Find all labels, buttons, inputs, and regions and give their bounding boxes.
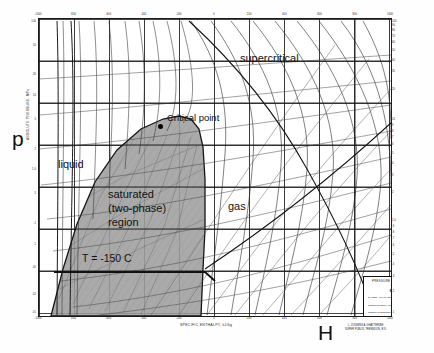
tick-label-bottom: 0	[213, 317, 215, 320]
label-supercritical: supercritical	[240, 52, 299, 64]
tick-label-bottom: -200	[176, 317, 182, 320]
tick-label-bottom: -400	[141, 317, 147, 320]
tick-label-right: 60	[392, 41, 395, 44]
tick-label-right: 7	[392, 135, 394, 138]
label-isotherm-minus-150c: T = -150 C	[82, 252, 132, 264]
label-saturated-line-2: (two-phase)	[108, 202, 166, 214]
tick-label-bottom: 600	[317, 317, 322, 320]
label-saturated-line-1: saturated	[108, 188, 154, 200]
tick-label-top: 200	[247, 13, 252, 16]
tick-label-right: 20	[392, 88, 395, 91]
tick-label-left: .05	[24, 266, 36, 269]
tick-label-right: .1	[392, 311, 394, 314]
tick-label-right: 100	[392, 19, 397, 22]
tick-label-right: 5	[392, 152, 394, 155]
label-critical-point: Critical point	[167, 112, 219, 123]
plot-frame: PRESSURE - ENTHALPY DIAGRAM FOR METHANE …	[38, 18, 392, 317]
tick-label-top: -200	[176, 13, 182, 16]
tick-label-left: .02	[24, 293, 36, 296]
title-block-line-1: PRESSURE - ENTHALPY DIAGRAM	[364, 279, 392, 283]
tick-label-bottom: -1000	[34, 317, 41, 320]
tick-label-right: 6	[392, 143, 394, 146]
tick-label-right: .4	[392, 262, 394, 265]
tick-label-left: 5	[24, 117, 36, 120]
label-gas: gas	[228, 200, 246, 212]
tick-label-right: .3	[392, 274, 394, 277]
tick-label-bottom: 800	[352, 317, 357, 320]
tick-label-right: 3	[392, 173, 394, 176]
title-block-line-2: FOR	[364, 284, 392, 288]
tick-label-right: .5	[392, 253, 394, 256]
tick-label-top: 1000	[387, 13, 393, 16]
tick-label-right: .7	[392, 237, 394, 240]
tick-label-top: -400	[141, 13, 147, 16]
tick-label-left: 1.0	[24, 168, 36, 171]
tick-label-top: 400	[282, 13, 287, 16]
curve-layer	[39, 19, 391, 316]
tick-label-right: 8	[392, 129, 394, 132]
tick-label-right: 2	[392, 190, 394, 193]
tick-label-top: -800	[70, 13, 76, 16]
critical-point-marker	[158, 124, 163, 129]
label-liquid: liquid	[58, 158, 84, 170]
tick-label-bottom: 1000	[387, 317, 393, 320]
tick-label-top: 0	[213, 13, 215, 16]
tick-label-left: .2	[24, 221, 36, 224]
title-block-detail-1: RANGE: AT 0.01 GRID SERIES, 0.001 350 TO	[364, 296, 392, 300]
tick-label-right: 1.0	[392, 218, 396, 221]
tick-label-top: 800	[352, 13, 357, 16]
tick-label-right: .9	[392, 224, 394, 227]
title-block-line-3: METHANE	[364, 289, 392, 293]
tick-label-bottom: -800	[70, 317, 76, 320]
axis-letter-p: p	[12, 128, 24, 149]
axis-letter-h: H	[318, 322, 333, 343]
credit-block: L. JOSSENS A. GHATTERJEE SUPER PUBLIS, T…	[345, 324, 386, 332]
tick-label-left: .1	[24, 242, 36, 245]
tick-label-right: .6	[392, 244, 394, 247]
tick-label-right: 50	[392, 49, 395, 52]
tick-label-bottom: 400	[282, 317, 287, 320]
tick-label-top: 600	[317, 13, 322, 16]
tick-label-right: 70	[392, 34, 395, 37]
tick-label-bottom: 200	[247, 317, 252, 320]
tick-label-right: 40	[392, 58, 395, 61]
tick-label-right: 10	[392, 117, 395, 120]
tick-label-right: 9	[392, 123, 394, 126]
tick-label-left: 50	[24, 43, 36, 46]
title-block-detail-2: SPECIFIC ENTHALPY = 0 kJ/kg AND	[364, 304, 392, 308]
tick-label-right: .2	[392, 290, 394, 293]
title-block-detail-3: SPECIFIC ENTROPY = 0 kJ/kg-K	[364, 311, 392, 315]
tick-label-right: 30	[392, 70, 395, 73]
tick-label-right: 90	[392, 24, 395, 27]
x-axis-caption: SPECIFIC ENTHALPY, kJ/kg	[180, 323, 232, 327]
ph-diagram-figure: p H ABSOLUTE PRESSURE, MPa SPECIFIC ENTH…	[0, 0, 434, 353]
tick-label-left: .01	[24, 311, 36, 314]
tick-label-left: 20	[24, 73, 36, 76]
label-saturated-line-3: region	[108, 216, 139, 228]
tick-label-bottom: -600	[106, 317, 112, 320]
title-block: PRESSURE - ENTHALPY DIAGRAM FOR METHANE …	[363, 276, 392, 317]
tick-label-left: 100	[24, 19, 36, 22]
tick-label-right: 80	[392, 29, 395, 32]
tick-label-left: 2	[24, 147, 36, 150]
tick-label-top: -600	[106, 13, 112, 16]
credit-line-2: SUPER PUBLIS, TRENNDON, R.S.	[345, 328, 386, 332]
tick-label-right: 4	[392, 161, 394, 164]
tick-label-right: .8	[392, 230, 394, 233]
tick-label-left: .5	[24, 192, 36, 195]
tick-label-top: -1000	[34, 13, 41, 16]
tick-label-left: 10	[24, 94, 36, 97]
